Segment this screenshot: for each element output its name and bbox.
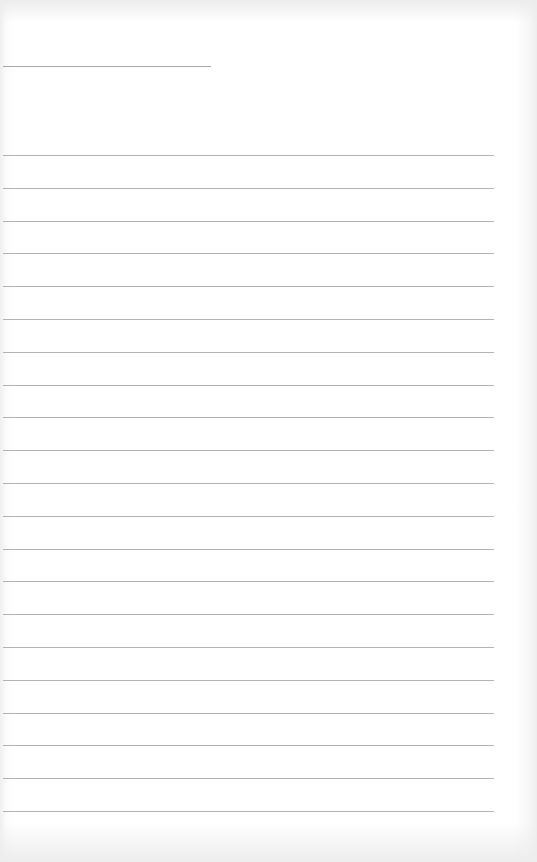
ruled-line (3, 581, 494, 582)
header-rule (3, 66, 211, 67)
ruled-line (3, 516, 494, 517)
ruled-line (3, 549, 494, 550)
ruled-line (3, 417, 494, 418)
ruled-line (3, 483, 494, 484)
scan-shadow-top (0, 0, 537, 22)
ruled-line (3, 614, 494, 615)
ruled-line (3, 319, 494, 320)
ruled-line (3, 778, 494, 779)
ruled-line (3, 647, 494, 648)
ruled-line (3, 680, 494, 681)
ruled-line (3, 352, 494, 353)
scan-shadow-bottom (0, 822, 537, 862)
ruled-line (3, 713, 494, 714)
ruled-line (3, 221, 494, 222)
ruled-line (3, 450, 494, 451)
lined-paper-page (0, 0, 537, 862)
ruled-line (3, 253, 494, 254)
ruled-line (3, 811, 494, 812)
ruled-line (3, 385, 494, 386)
ruled-line (3, 188, 494, 189)
ruled-line (3, 286, 494, 287)
ruled-line (3, 745, 494, 746)
ruled-line (3, 155, 494, 156)
